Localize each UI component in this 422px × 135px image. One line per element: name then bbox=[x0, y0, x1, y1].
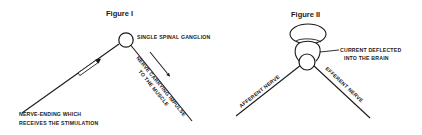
label-pointer bbox=[320, 50, 339, 52]
spinal-ganglion-circle bbox=[119, 33, 133, 47]
nerve-ending-label-line1: NERVE-ENDING WHICH bbox=[19, 111, 81, 117]
impulse-arrow-up-icon bbox=[77, 56, 102, 76]
efferent-label-line1: NERVE CARRYING IMPULSE bbox=[135, 55, 187, 118]
figure-1-title: Figure I bbox=[106, 9, 133, 18]
afferent-nerve-line bbox=[22, 44, 119, 113]
brain-label-line1: CURRENT DEFLECTED bbox=[340, 47, 401, 53]
figure-1: Figure I SINGLE SPINAL GANGLION NERVE CA… bbox=[19, 9, 211, 126]
reflex-arc-diagram: Figure I SINGLE SPINAL GANGLION NERVE CA… bbox=[0, 0, 422, 135]
nerve-ending-label-line2: RECEIVES THE STIMULATION bbox=[19, 120, 98, 126]
figure-2: Figure II CURRENT DEFLECTED INTO THE BRA… bbox=[236, 10, 401, 118]
efferent-label-2: EFFERENT NERVE bbox=[324, 65, 364, 103]
afferent-nerve-line-2 bbox=[236, 65, 301, 116]
spinal-ganglion-circle-2 bbox=[299, 54, 315, 70]
ganglion-label: SINGLE SPINAL GANGLION bbox=[137, 34, 211, 40]
brain-label-line2: INTO THE BRAIN bbox=[344, 55, 389, 61]
afferent-label: AFFERENT NERVE bbox=[238, 73, 281, 109]
efferent-nerve-line-2 bbox=[313, 65, 370, 118]
figure-2-title: Figure II bbox=[291, 10, 320, 19]
